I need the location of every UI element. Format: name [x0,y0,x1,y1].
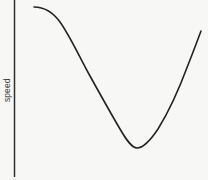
chart-container: speed [0,0,208,180]
line-chart-plot [0,0,208,180]
chart-background [0,0,208,180]
